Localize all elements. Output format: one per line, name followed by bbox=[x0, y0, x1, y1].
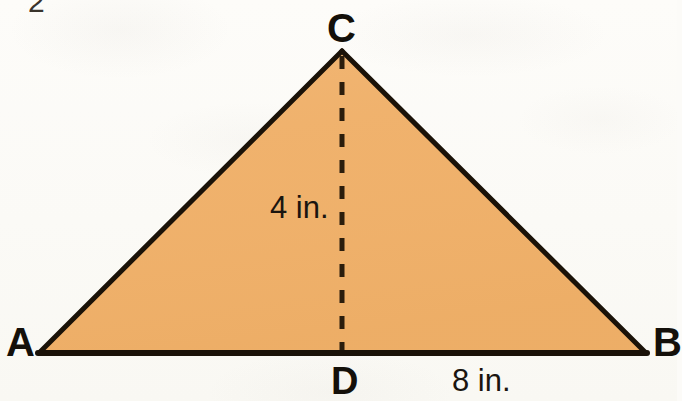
vertex-label-b: B bbox=[653, 322, 682, 362]
triangle-fill-shading bbox=[40, 51, 645, 352]
vertex-label-c: C bbox=[327, 8, 356, 48]
base-measurement-label: 8 in. bbox=[452, 365, 511, 396]
vertex-label-d: D bbox=[331, 362, 358, 400]
height-measurement-label: 4 in. bbox=[270, 192, 329, 223]
page-corner-number: 2 bbox=[28, 0, 45, 17]
vertex-label-a: A bbox=[6, 322, 35, 362]
